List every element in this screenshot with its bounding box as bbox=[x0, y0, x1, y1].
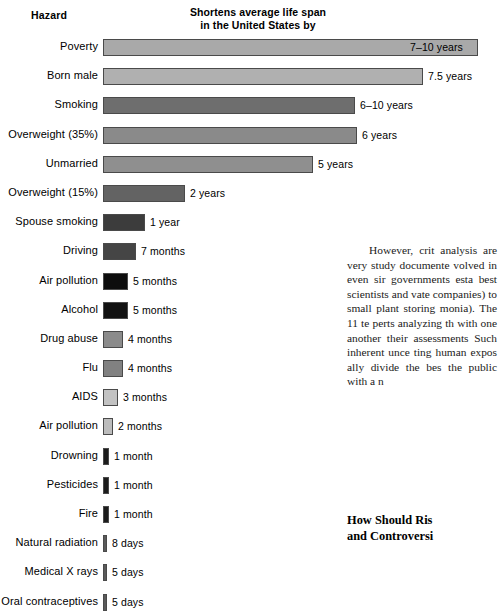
bar bbox=[103, 127, 357, 144]
bar-category-label: Medical X rays bbox=[24, 565, 98, 577]
section-heading: How Should Ris and Controversi bbox=[347, 512, 502, 544]
bar bbox=[103, 448, 109, 465]
bar-category-label: Natural radiation bbox=[16, 536, 98, 548]
bar bbox=[103, 97, 355, 114]
bar bbox=[103, 418, 113, 435]
bar-category-label: Oral contraceptives bbox=[1, 595, 98, 607]
bar-row: Drowning1 month bbox=[0, 447, 479, 476]
bar-row: Medical X rays5 days bbox=[0, 563, 479, 592]
bar-category-label: Spouse smoking bbox=[15, 215, 98, 227]
bar bbox=[103, 594, 107, 611]
bar-category-label: Drowning bbox=[51, 449, 98, 461]
bar-value-label: 5 days bbox=[112, 596, 144, 608]
bar-value-label: 1 year bbox=[150, 216, 180, 228]
bar-value-label: 2 months bbox=[118, 420, 162, 432]
bar-row: Pesticides1 month bbox=[0, 476, 479, 505]
bar bbox=[103, 535, 107, 552]
column-header-hazard: Hazard bbox=[0, 9, 98, 21]
bar-category-label: AIDS bbox=[72, 390, 98, 402]
bar bbox=[103, 506, 109, 523]
bar-row: Born male7.5 years bbox=[0, 67, 479, 96]
bar bbox=[103, 389, 118, 406]
bar bbox=[103, 302, 128, 319]
bar-category-label: Born male bbox=[47, 69, 98, 81]
bar-category-label: Air pollution bbox=[39, 274, 98, 286]
chart-title: Shortens average life span in the United… bbox=[103, 6, 413, 32]
bar-value-label: 2 years bbox=[190, 187, 225, 199]
bar-value-label: 5 days bbox=[112, 566, 144, 578]
bar-row: Unmarried5 years bbox=[0, 155, 479, 184]
bar-value-label: 4 months bbox=[128, 362, 172, 374]
chart-title-line-1: Shortens average life span bbox=[103, 6, 413, 19]
section-heading-line-2: and Controversi bbox=[347, 528, 502, 544]
bar bbox=[103, 360, 123, 377]
bar-value-label: 7.5 years bbox=[428, 70, 472, 82]
bar-value-label: 6–10 years bbox=[360, 99, 413, 111]
bar-category-label: Alcohol bbox=[61, 303, 98, 315]
bar-category-label: Fire bbox=[79, 507, 98, 519]
bar-value-label: 7–10 years bbox=[410, 41, 463, 53]
bar-value-label: 1 month bbox=[114, 508, 153, 520]
body-paragraph: However, crit analysis are very study do… bbox=[347, 243, 497, 389]
bar bbox=[103, 185, 185, 202]
bar-category-label: Unmarried bbox=[46, 157, 98, 169]
bar-category-label: Driving bbox=[63, 244, 98, 256]
bar-value-label: 8 days bbox=[112, 537, 144, 549]
section-heading-line-1: How Should Ris bbox=[347, 512, 502, 528]
bar-category-label: Flu bbox=[82, 361, 98, 373]
body-text-column: However, crit analysis are very study do… bbox=[347, 243, 497, 389]
bar-row: Air pollution2 months bbox=[0, 417, 479, 446]
bar bbox=[103, 68, 423, 85]
bar-value-label: 1 month bbox=[114, 450, 153, 462]
bar-value-label: 6 years bbox=[362, 129, 397, 141]
bar-category-label: Overweight (15%) bbox=[8, 186, 98, 198]
bar-value-label: 5 years bbox=[318, 158, 353, 170]
bar-category-label: Air pollution bbox=[39, 419, 98, 431]
bar-row: Poverty7–10 years bbox=[0, 38, 479, 67]
bar-row: Spouse smoking1 year bbox=[0, 213, 479, 242]
bar bbox=[103, 214, 145, 231]
chart-title-line-2: in the United States by bbox=[103, 19, 413, 32]
bar bbox=[103, 243, 136, 260]
bar-row: Overweight (15%)2 years bbox=[0, 184, 479, 213]
bar-row: AIDS3 months bbox=[0, 388, 479, 417]
bar bbox=[103, 564, 107, 581]
bar-category-label: Smoking bbox=[55, 98, 99, 110]
bar-category-label: Poverty bbox=[60, 40, 98, 52]
bar bbox=[103, 331, 123, 348]
bar-row: Smoking6–10 years bbox=[0, 96, 479, 125]
bar bbox=[103, 273, 128, 290]
bar-row: Overweight (35%)6 years bbox=[0, 126, 479, 155]
bar-value-label: 7 months bbox=[141, 245, 185, 257]
bar-value-label: 1 month bbox=[114, 479, 153, 491]
bar-row: Oral contraceptives5 days bbox=[0, 593, 479, 615]
bar-category-label: Drug abuse bbox=[40, 332, 98, 344]
bar bbox=[103, 156, 313, 173]
bar-value-label: 3 months bbox=[123, 391, 167, 403]
bar-value-label: 5 months bbox=[133, 275, 177, 287]
bar-category-label: Pesticides bbox=[47, 478, 98, 490]
bar-category-label: Overweight (35%) bbox=[8, 128, 98, 140]
bar-value-label: 4 months bbox=[128, 333, 172, 345]
bar bbox=[103, 477, 109, 494]
bar-value-label: 5 months bbox=[133, 304, 177, 316]
